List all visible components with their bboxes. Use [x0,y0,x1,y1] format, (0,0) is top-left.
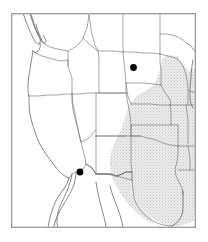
map-marker-north [130,64,137,71]
map-figure [0,0,208,242]
map-marker-south [77,169,84,176]
map-svg [0,0,208,242]
